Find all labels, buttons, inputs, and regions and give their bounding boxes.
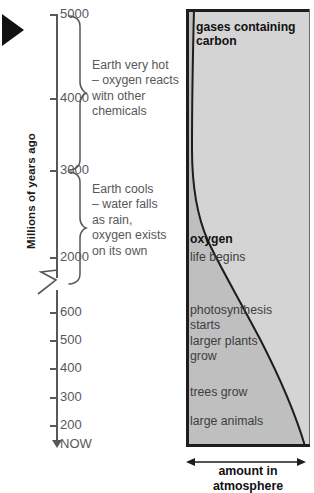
atmosphere-composition-panel xyxy=(186,9,310,446)
tick-mark xyxy=(50,98,57,100)
tick-label-500: 500 xyxy=(60,333,82,346)
panel-border-top xyxy=(186,9,310,12)
brace-note-1 xyxy=(66,14,88,172)
brace-note-2 xyxy=(66,170,88,286)
x-axis-label: amount in atmosphere xyxy=(186,464,310,493)
event-label-larger-plants-grow: larger plants grow xyxy=(190,334,258,363)
note-earth-very-hot: Earth very hot – oxygen reacts witn othe… xyxy=(92,58,179,120)
tick-mark xyxy=(50,14,57,16)
event-label-life-begins: life begins xyxy=(190,250,245,265)
event-label-trees-grow: trees grow xyxy=(190,385,247,400)
tick-mark xyxy=(50,257,57,259)
tick-label-now: NOW xyxy=(60,437,92,450)
composition-area-chart xyxy=(186,9,310,446)
tick-mark xyxy=(50,170,57,172)
oxygen-region xyxy=(186,9,305,446)
tick-label-600: 600 xyxy=(60,305,82,318)
panel-border-bottom xyxy=(186,444,310,447)
event-label-photosynthesis-starts: photosynthesis starts xyxy=(190,303,272,332)
region-label-gases-containing-carbon: gases containing carbon xyxy=(196,20,308,49)
panel-border-left xyxy=(186,9,189,446)
y-axis-title: Millions of years ago xyxy=(25,116,37,266)
region-label-oxygen: oxygen xyxy=(190,232,233,246)
tick-label-400: 400 xyxy=(60,361,82,374)
panel-border-right xyxy=(309,9,311,446)
figure-canvas: Millions of years ago 5000 4000 3000 200… xyxy=(0,0,314,493)
tick-label-300: 300 xyxy=(60,390,82,403)
tick-label-200: 200 xyxy=(60,418,82,431)
y-axis-line-upper xyxy=(56,14,58,278)
tick-mark xyxy=(50,397,57,399)
tick-mark xyxy=(50,340,57,342)
tick-mark xyxy=(50,368,57,370)
play-triangle-icon xyxy=(2,14,24,46)
tick-mark xyxy=(50,312,57,314)
tick-mark xyxy=(50,425,57,427)
event-label-large-animals: large animals xyxy=(190,414,263,429)
note-earth-cools: Earth cools – water falls as rain, oxyge… xyxy=(92,182,167,259)
